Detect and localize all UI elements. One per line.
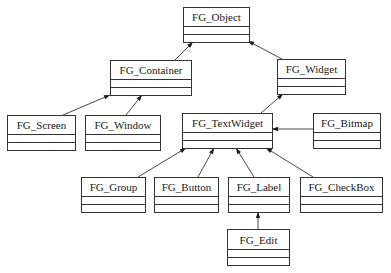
class-box-button: FG_Button xyxy=(155,178,219,213)
inheritance-edge-checkbox-to-textwidget xyxy=(266,148,313,177)
class-box-screen: FG_Screen xyxy=(8,116,76,151)
class-name: FG_Widget xyxy=(286,63,338,75)
class-name: FG_TextWidget xyxy=(192,117,263,129)
class-box-checkbox: FG_CheckBox xyxy=(301,178,383,213)
class-box-textwidget: FG_TextWidget xyxy=(183,114,273,149)
inheritance-edge-container-to-object xyxy=(175,42,193,60)
class-name: FG_Button xyxy=(162,181,212,193)
class-box-widget: FG_Widget xyxy=(278,60,346,95)
edge-line xyxy=(63,95,110,115)
inheritance-edge-screen-to-container xyxy=(63,95,110,115)
inheritance-edge-group-to-textwidget xyxy=(138,148,186,177)
inheritance-edge-label-to-textwidget xyxy=(236,148,254,177)
inheritance-edge-window-to-container xyxy=(126,95,142,115)
class-box-bitmap: FG_Bitmap xyxy=(314,114,381,149)
class-box-object: FG_Object xyxy=(184,8,250,43)
class-box-group: FG_Group xyxy=(82,178,146,213)
class-name: FG_Container xyxy=(120,64,183,76)
class-name: FG_Label xyxy=(237,181,282,193)
class-name: FG_CheckBox xyxy=(309,181,376,193)
arrowhead-icon xyxy=(104,95,110,99)
edge-line xyxy=(266,148,313,177)
class-box-window: FG_Window xyxy=(86,116,161,151)
class-diagram: FG_ObjectFG_ContainerFG_WidgetFG_ScreenF… xyxy=(0,0,391,273)
inheritance-edge-edit-to-label xyxy=(256,212,260,229)
class-name: FG_Group xyxy=(90,181,138,193)
class-name: FG_Window xyxy=(94,119,151,131)
inheritance-edge-bitmap-to-textwidget xyxy=(272,127,313,131)
class-box-edit: FG_Edit xyxy=(228,230,290,266)
class-nodes: FG_ObjectFG_ContainerFG_WidgetFG_ScreenF… xyxy=(8,8,383,266)
edge-line xyxy=(138,148,186,177)
inheritance-edge-button-to-textwidget xyxy=(198,148,214,177)
class-name: FG_Edit xyxy=(240,234,278,246)
inheritance-edge-textwidget-to-widget xyxy=(261,94,283,113)
class-name: FG_Object xyxy=(192,11,241,23)
class-box-label: FG_Label xyxy=(229,178,290,213)
class-name: FG_Bitmap xyxy=(321,117,373,129)
class-name: FG_Screen xyxy=(17,119,67,131)
inheritance-edge-widget-to-object xyxy=(248,41,282,59)
class-box-container: FG_Container xyxy=(111,61,192,96)
